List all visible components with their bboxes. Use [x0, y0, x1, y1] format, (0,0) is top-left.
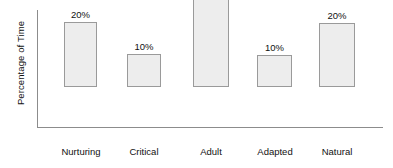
x-axis-label-line1: Natural	[322, 146, 353, 157]
x-axis-label-line1: Critical	[129, 146, 158, 157]
bar-adapted-child[interactable]	[257, 55, 292, 87]
x-axis-label-line1: Nurturing	[61, 146, 100, 157]
bar-value-label: 20%	[71, 9, 90, 20]
plot-area: 20% 10% 40% 10% 20%	[0, 0, 393, 128]
bar-group-adult: 40%	[193, 0, 229, 87]
bar-nurturing-parent[interactable]	[64, 22, 97, 87]
x-axis-label-nurturing-parent: Nurturing parent	[44, 133, 118, 168]
bar-chart: Percentage of Time 20% 10% 40% 10% 20% N…	[0, 0, 393, 168]
bar-adult[interactable]	[193, 0, 229, 87]
bar-critical-parent[interactable]	[127, 54, 161, 87]
bar-group-critical-parent: 10%	[127, 54, 161, 87]
bar-value-label: 10%	[265, 42, 284, 53]
x-axis-label-natural-child: Natural child	[301, 133, 373, 168]
bar-natural-child[interactable]	[319, 23, 355, 87]
bar-value-label: 10%	[134, 41, 153, 52]
x-axis-label-line1: Adult	[200, 146, 222, 157]
x-axis-label-critical-parent: Critical parent	[108, 133, 180, 168]
bar-value-label: 20%	[327, 10, 346, 21]
bar-group-adapted-child: 10%	[257, 55, 292, 87]
x-axis-label-line1: Adapted	[257, 146, 292, 157]
bar-group-nurturing-parent: 20%	[64, 22, 97, 87]
x-axis-label-adult: Adult	[177, 133, 245, 158]
bar-group-natural-child: 20%	[319, 23, 355, 87]
